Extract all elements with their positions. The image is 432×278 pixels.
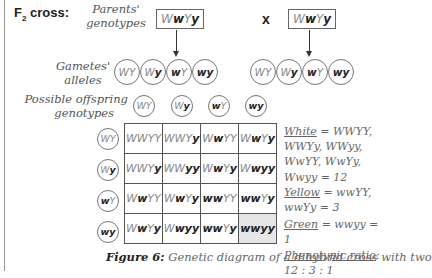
recessive-allele: y (155, 66, 162, 78)
possible-offspring-label: Possible offspringgenotypes (6, 92, 128, 120)
legend-ratio-value: 12 : 3 : 1 (284, 263, 382, 278)
recessive-allele: y (109, 226, 115, 237)
recessive-allele: y (261, 162, 268, 175)
dominant-allele: Y (110, 133, 116, 144)
parent-genotype-box-1: WwYy (156, 9, 204, 29)
recessive-allele: y (110, 164, 116, 175)
punnett-row: WWYY WWYy WwYY WwYy (125, 124, 277, 154)
punnett-square: WWYY WWYy WwYY WwYy WWYy WWyy WwYy Wwyy … (124, 123, 277, 244)
recessive-allele: w (171, 66, 181, 78)
gamete-allele-circle: Wy (276, 59, 302, 85)
dominant-allele: W (293, 12, 305, 26)
dominant-allele: Y (317, 66, 323, 78)
parent-genotype-box-2: WwYy (288, 9, 336, 29)
recessive-allele: y (291, 66, 298, 78)
dominant-allele: W (161, 12, 173, 26)
punnett-cell: Wwyy (239, 154, 277, 184)
punnett-cell: WWyy (163, 154, 201, 184)
recessive-allele: y (342, 66, 349, 78)
legend-white-line: WWYy, WWyy, (284, 139, 382, 154)
arrow-down-icon (173, 51, 179, 57)
row-header-circle: Wy (97, 159, 119, 181)
recessive-allele: w (333, 66, 343, 78)
legend-white: White = WWYY, (284, 124, 382, 139)
recessive-allele: w (197, 66, 207, 78)
gametes-alleles-label: Gametes'alleles (54, 59, 112, 87)
dominant-allele: Y (185, 192, 192, 205)
gamete-allele-circle: wy (192, 59, 218, 85)
recessive-allele: w (251, 192, 261, 205)
dominant-allele: Y (220, 100, 226, 111)
dominant-allele: W (100, 164, 109, 175)
dominant-allele: W (137, 162, 148, 175)
recessive-allele: y (192, 192, 199, 205)
left-margin-rule (4, 0, 5, 271)
dominant-allele: W (240, 132, 251, 145)
recessive-allele: y (323, 12, 331, 26)
gamete-allele-circle: WY (114, 59, 140, 85)
recessive-allele: w (137, 222, 147, 235)
dominant-allele: W (174, 162, 185, 175)
recessive-allele: y (192, 162, 199, 175)
recessive-allele: y (185, 222, 192, 235)
dominant-allele: Y (230, 132, 237, 145)
punnett-cell: WwYY (201, 124, 239, 154)
recessive-allele: w (213, 162, 223, 175)
dominant-allele: W (164, 222, 175, 235)
dominant-allele: Y (109, 195, 115, 206)
dominant-allele: Y (154, 192, 161, 205)
recessive-allele: y (154, 222, 161, 235)
recessive-allele: w (305, 12, 316, 26)
row-header-circle: wy (97, 221, 119, 243)
recessive-allele: y (206, 66, 213, 78)
gamete-allele-circle: wY (302, 59, 328, 85)
dominant-allele: W (137, 132, 148, 145)
recessive-allele: y (192, 222, 199, 235)
row-header-circle: WY (97, 128, 119, 150)
column-header-circle: wy (245, 95, 267, 117)
punnett-cell: wwYY (201, 184, 239, 214)
recessive-allele: w (175, 192, 185, 205)
recessive-allele: w (240, 222, 250, 235)
dominant-allele: W (174, 100, 183, 111)
dominant-allele: W (255, 66, 265, 78)
cross-symbol: x (262, 11, 270, 27)
dominant-allele: Y (154, 132, 161, 145)
dominant-allele: W (164, 192, 175, 205)
diagram-title: F2 cross: (14, 5, 69, 23)
dominant-allele: Y (223, 192, 230, 205)
dominant-allele: Y (223, 162, 230, 175)
recessive-allele: y (268, 222, 275, 235)
legend-green: Green = wwyy = 1 (284, 217, 382, 247)
dominant-allele: W (202, 132, 213, 145)
punnett-cell: wwYy (201, 214, 239, 244)
dominant-allele: W (144, 66, 154, 78)
recessive-allele: w (202, 222, 212, 235)
gamete-allele-circle: wY (166, 59, 192, 85)
recessive-allele: y (191, 12, 199, 26)
recessive-allele: y (154, 162, 161, 175)
parents-genotypes-label: Parents'genotypes (76, 2, 156, 30)
gamete-allele-circle: wy (328, 59, 354, 85)
dominant-allele: Y (129, 66, 135, 78)
dominant-allele: Y (146, 100, 152, 111)
punnett-cell: WwYy (201, 154, 239, 184)
punnett-cell: wwYy (239, 184, 277, 214)
recessive-allele: w (203, 192, 213, 205)
recessive-allele: w (240, 192, 250, 205)
recessive-allele: w (249, 100, 258, 111)
dominant-allele: Y (147, 222, 154, 235)
recessive-allele: y (257, 100, 263, 111)
legend-white-line: WwYY, WwYy, (284, 154, 382, 169)
punnett-cell: WwYy (239, 124, 277, 154)
dominant-allele: W (100, 133, 109, 144)
punnett-cell: Wwyy (163, 214, 201, 244)
gamete-allele-circle: WY (250, 59, 276, 85)
arrow-line-1 (176, 30, 177, 52)
dominant-allele: Y (181, 66, 187, 78)
recessive-allele: w (173, 12, 184, 26)
row-header-circle: wY (97, 190, 119, 212)
recessive-allele: y (230, 162, 237, 175)
dominant-allele: Y (230, 192, 237, 205)
dominant-allele: W (126, 162, 137, 175)
